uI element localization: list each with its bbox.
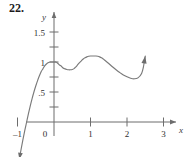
x-tick-label-3: 3	[161, 129, 166, 139]
x-tick-label-1: 1	[88, 129, 93, 139]
figure-page: 22. y x 1.5 1 .5 0 –1 1 2	[0, 0, 195, 157]
y-tick-label-0p5: .5	[38, 88, 45, 98]
graph-figure: y x 1.5 1 .5 0 –1 1 2 3	[0, 0, 195, 157]
origin-label: 0	[43, 129, 48, 139]
curve-down-arrow-icon	[18, 152, 23, 157]
x-tick-label-minus1: –1	[12, 129, 22, 139]
y-tick-label-1p5: 1.5	[34, 28, 46, 38]
x-axis-label: x	[178, 125, 183, 135]
x-tick-label-2: 2	[125, 129, 130, 139]
curve-up-arrow-icon	[141, 56, 146, 64]
y-axis-arrow-icon	[52, 12, 57, 18]
function-curve	[19, 56, 145, 157]
y-axis-label: y	[41, 12, 46, 22]
x-axis-arrow-icon	[170, 120, 176, 125]
